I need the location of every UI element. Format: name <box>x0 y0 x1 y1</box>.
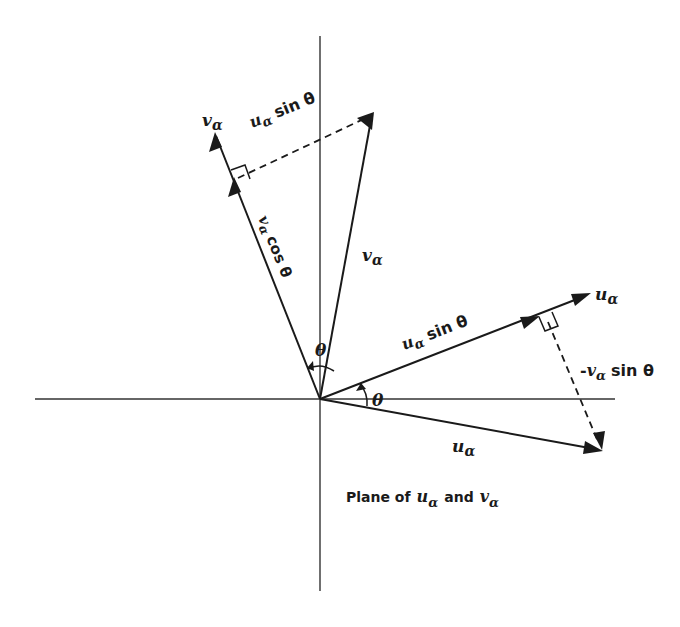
label-theta-upper: θ <box>315 340 327 360</box>
right-angle-marker <box>539 312 558 331</box>
arrowhead-icon <box>571 293 591 306</box>
vector-diagram: vα uαsin θ vαcos θ vα θ θ uαsin θ uα -vα… <box>0 0 680 627</box>
label-u-alpha-unit: uα <box>595 284 618 307</box>
label-neg-v-alpha-sin-theta: -vαsin θ <box>580 361 654 383</box>
projection-line-neg-v-sin <box>548 322 599 444</box>
caption-plane-of-u-and-v: Plane ofuαandvα <box>346 487 499 510</box>
label-v-alpha-unit: vα <box>202 110 223 133</box>
label-v-alpha: vα <box>362 245 383 268</box>
label-theta-lower: θ <box>372 390 384 410</box>
u-alpha-unit-vector <box>320 293 591 399</box>
label-u-alpha-sin-theta-right: uαsin θ <box>399 311 472 356</box>
arrowhead-icon <box>209 132 222 152</box>
label-u-alpha: uα <box>452 436 475 459</box>
v-alpha-unit-vector <box>209 132 320 399</box>
label-u-alpha-sin-theta-upper: uαsin θ <box>246 88 319 134</box>
arrowhead-icon <box>520 316 540 329</box>
